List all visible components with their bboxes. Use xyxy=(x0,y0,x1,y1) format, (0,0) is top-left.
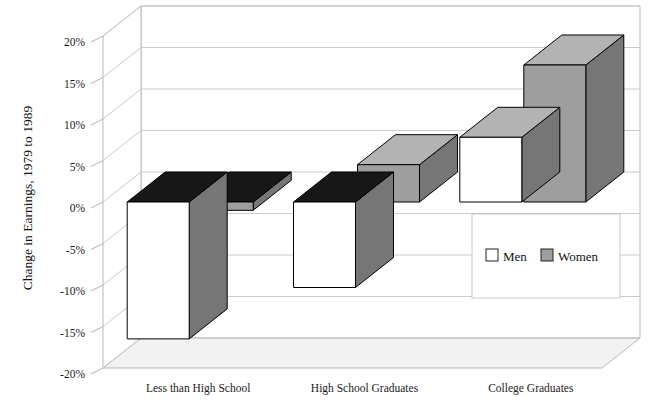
y-axis-tick-10% xyxy=(91,119,103,125)
y-axis-tick-label: -10% xyxy=(60,285,85,297)
y-axis-tick-label: 0% xyxy=(70,202,86,214)
legend-label-men: Men xyxy=(503,249,527,264)
y-axis-tick-15% xyxy=(91,78,103,84)
x-axis-category-label: College Graduates xyxy=(488,382,574,395)
y-axis-tick-20% xyxy=(91,36,103,42)
y-axis-tick-label: 20% xyxy=(64,36,86,48)
y-axis-tick-label: 15% xyxy=(64,78,86,90)
x-axis-category-label: High School Graduates xyxy=(311,382,419,395)
y-axis-tick--15% xyxy=(91,327,103,333)
y-axis-title: Change in Earnings, 1979 to 1989 xyxy=(20,48,36,348)
y-axis-title-host: Change in Earnings, 1979 to 1989 xyxy=(0,0,40,416)
y-axis-tick--5% xyxy=(91,244,103,250)
bar-2-men-front xyxy=(460,137,522,202)
y-axis-tick-label: -15% xyxy=(60,327,85,339)
y-axis-tick-label: 10% xyxy=(64,119,86,131)
bar-1-men-front xyxy=(294,202,356,288)
legend-swatch-women xyxy=(541,249,553,261)
legend-label-women: Women xyxy=(558,249,599,264)
y-axis-tick-label: 5% xyxy=(70,161,86,173)
legend-swatch-men xyxy=(486,249,498,261)
y-axis-tick-label: -5% xyxy=(66,244,86,256)
chart-container: 20%15%10%5%0%-5%-10%-15%-20%Less than Hi… xyxy=(0,0,664,416)
bar-0-men-front xyxy=(127,202,189,339)
y-axis-tick-5% xyxy=(91,161,103,167)
chart-floor xyxy=(103,338,640,368)
three-d-bar-chart: 20%15%10%5%0%-5%-10%-15%-20%Less than Hi… xyxy=(0,0,664,416)
y-axis-tick--20% xyxy=(91,368,103,374)
y-axis-tick-0% xyxy=(91,202,103,208)
x-axis-category-label: Less than High School xyxy=(146,382,250,395)
y-axis-tick--10% xyxy=(91,285,103,291)
y-axis-tick-label: -20% xyxy=(60,368,85,380)
